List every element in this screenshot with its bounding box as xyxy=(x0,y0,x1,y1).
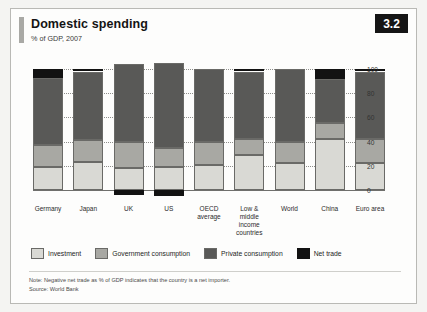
y-axis-tick-label: 40 xyxy=(367,138,374,145)
bar-segment-investment xyxy=(194,165,224,190)
bar-segment-private xyxy=(114,64,144,141)
page-subtitle: % of GDP, 2007 xyxy=(31,34,82,43)
x-axis-label: Germany xyxy=(33,205,63,233)
bar-segment-private xyxy=(355,72,385,140)
figure-number-plate: 3.2 xyxy=(375,14,408,33)
bar-segment-private xyxy=(154,63,184,148)
bar-segment-government xyxy=(194,142,224,165)
figure-card: Domestic spending % of GDP, 2007 3.2 020… xyxy=(10,8,417,304)
bar-stack xyxy=(73,57,103,202)
bar-stack xyxy=(154,57,184,202)
bar-segment-nettrade xyxy=(234,69,264,71)
bar-stack xyxy=(194,57,224,202)
bar-segment-government xyxy=(154,148,184,167)
footer-divider xyxy=(29,271,401,272)
x-axis-label: OECD average xyxy=(192,205,226,233)
bar-stack xyxy=(355,57,385,202)
legend-label: Investment xyxy=(48,250,81,257)
legend-swatch-investment xyxy=(31,248,44,259)
x-axis-label: Euro area xyxy=(355,205,385,233)
bar-segment-private xyxy=(73,72,103,141)
bar-segment-government xyxy=(234,139,264,155)
y-axis-tick-label: 80 xyxy=(367,90,374,97)
bar-segment-nettrade xyxy=(114,190,144,195)
bar-segment-government xyxy=(315,123,345,139)
y-axis-tick-label: 100 xyxy=(367,66,378,73)
bar-segment-nettrade xyxy=(315,69,345,79)
bar-stack xyxy=(234,57,264,202)
legend-label: Net trade xyxy=(314,250,342,257)
y-axis-tick-label: 0 xyxy=(367,186,371,193)
bar-stack xyxy=(275,57,305,202)
figure-root: Domestic spending % of GDP, 2007 3.2 020… xyxy=(0,0,427,312)
y-axis-tick-label: 20 xyxy=(367,162,374,169)
x-axis-labels: GermanyJapanUKUSOECD averageLow & middle… xyxy=(33,205,385,233)
bar-segment-investment xyxy=(114,168,144,190)
bar-segment-investment xyxy=(73,162,103,190)
bar-segment-government xyxy=(275,142,305,164)
bar-segment-private xyxy=(33,78,63,146)
bar-stack xyxy=(33,57,63,202)
legend-swatch-private xyxy=(204,248,217,259)
figure-header: Domestic spending % of GDP, 2007 3.2 xyxy=(11,9,416,53)
bar-segment-private xyxy=(234,72,264,140)
bar-segment-investment xyxy=(275,163,305,190)
legend-label: Government consumption xyxy=(112,250,190,257)
bar-stack xyxy=(114,57,144,202)
x-axis-label: World xyxy=(275,205,305,233)
plot-area xyxy=(33,57,385,202)
bar-segment-private xyxy=(194,69,224,142)
legend-swatch-government xyxy=(95,248,108,259)
bar-segment-nettrade xyxy=(33,69,63,77)
x-axis-label: UK xyxy=(114,205,144,233)
bar-segment-private xyxy=(315,79,345,124)
x-axis-label: China xyxy=(315,205,345,233)
title-accent-bar xyxy=(19,17,24,43)
x-axis-label: Japan xyxy=(73,205,103,233)
figure-source: Source: World Bank xyxy=(29,286,79,292)
y-axis-tick-label: 60 xyxy=(367,114,374,121)
bar-segment-investment xyxy=(315,139,345,190)
legend-item: Net trade xyxy=(297,248,342,259)
bar-segment-investment xyxy=(154,167,184,190)
bar-segment-investment xyxy=(33,167,63,190)
bar-segment-government xyxy=(114,142,144,169)
chart-legend: InvestmentGovernment consumptionPrivate … xyxy=(31,245,403,261)
bar-stack xyxy=(315,57,345,202)
bar-segment-government xyxy=(73,140,103,162)
x-axis-label: US xyxy=(154,205,184,233)
x-axis-label: Low & middle income countries xyxy=(232,205,266,233)
bar-group xyxy=(33,57,385,202)
bar-segment-nettrade xyxy=(154,190,184,196)
bar-segment-private xyxy=(275,69,305,142)
bar-segment-nettrade xyxy=(73,69,103,71)
legend-item: Private consumption xyxy=(204,248,283,259)
legend-swatch-nettrade xyxy=(297,248,310,259)
figure-note: Note: Negative net trade as % of GDP ind… xyxy=(29,277,230,283)
bar-segment-government xyxy=(33,145,63,167)
bar-segment-investment xyxy=(234,155,264,190)
legend-label: Private consumption xyxy=(221,250,283,257)
legend-item: Investment xyxy=(31,248,81,259)
legend-item: Government consumption xyxy=(95,248,190,259)
page-title: Domestic spending xyxy=(31,17,148,31)
